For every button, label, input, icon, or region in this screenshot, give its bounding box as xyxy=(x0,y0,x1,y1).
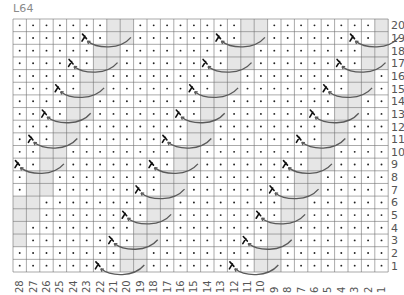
purl-dot xyxy=(260,100,262,102)
row-number: 5 xyxy=(391,209,398,222)
purl-dot xyxy=(273,100,275,102)
purl-dot xyxy=(354,252,356,254)
purl-dot xyxy=(19,265,21,267)
purl-dot xyxy=(193,62,195,64)
purl-dot xyxy=(180,239,182,241)
purl-dot xyxy=(340,189,342,191)
purl-dot xyxy=(354,176,356,178)
column-number: 21 xyxy=(108,280,119,293)
knit-cell xyxy=(254,32,267,45)
knit-cell xyxy=(40,183,53,196)
purl-dot xyxy=(247,126,249,128)
knit-cell xyxy=(13,196,26,209)
purl-dot xyxy=(247,252,249,254)
purl-dot xyxy=(139,24,141,26)
purl-dot xyxy=(287,50,289,52)
purl-dot xyxy=(233,24,235,26)
row-number: 11 xyxy=(391,133,404,146)
purl-dot xyxy=(72,88,74,90)
purl-dot xyxy=(220,151,222,153)
column-number: 14 xyxy=(202,280,213,293)
purl-dot xyxy=(86,265,88,267)
purl-dot xyxy=(72,214,74,216)
purl-dot xyxy=(99,138,101,140)
purl-dot xyxy=(99,151,101,153)
purl-dot xyxy=(340,201,342,203)
purl-dot xyxy=(340,214,342,216)
purl-dot xyxy=(381,214,383,216)
purl-dot xyxy=(273,113,275,115)
purl-dot xyxy=(46,37,48,39)
purl-dot xyxy=(206,252,208,254)
purl-dot xyxy=(206,24,208,26)
purl-dot xyxy=(367,138,369,140)
purl-dot xyxy=(19,37,21,39)
purl-dot xyxy=(206,88,208,90)
purl-dot xyxy=(260,239,262,241)
purl-dot xyxy=(180,100,182,102)
knit-cell xyxy=(40,158,53,171)
purl-dot xyxy=(287,126,289,128)
row-number: 10 xyxy=(391,146,404,159)
purl-dot xyxy=(139,176,141,178)
purl-dot xyxy=(340,50,342,52)
purl-dot xyxy=(32,227,34,229)
purl-dot xyxy=(220,176,222,178)
purl-dot xyxy=(180,75,182,77)
purl-dot xyxy=(32,37,34,39)
purl-dot xyxy=(99,100,101,102)
knit-cell xyxy=(67,133,80,146)
purl-dot xyxy=(233,151,235,153)
purl-dot xyxy=(300,100,302,102)
knit-cell xyxy=(361,82,374,95)
column-number: 27 xyxy=(28,280,39,293)
purl-dot xyxy=(46,138,48,140)
purl-dot xyxy=(327,214,329,216)
purl-dot xyxy=(260,151,262,153)
purl-dot xyxy=(233,214,235,216)
purl-dot xyxy=(180,88,182,90)
column-number: 3 xyxy=(349,287,360,293)
purl-dot xyxy=(19,75,21,77)
purl-dot xyxy=(153,126,155,128)
knit-cell xyxy=(160,209,173,222)
knit-cell xyxy=(348,82,361,95)
purl-dot xyxy=(153,189,155,191)
purl-dot xyxy=(206,75,208,77)
purl-dot xyxy=(32,50,34,52)
column-number: 11 xyxy=(242,280,253,293)
purl-dot xyxy=(193,239,195,241)
purl-dot xyxy=(153,37,155,39)
purl-dot xyxy=(206,50,208,52)
knit-cell xyxy=(120,259,133,272)
purl-dot xyxy=(367,151,369,153)
purl-dot xyxy=(273,201,275,203)
purl-dot xyxy=(46,227,48,229)
row-number: 6 xyxy=(391,196,398,209)
purl-dot xyxy=(233,252,235,254)
purl-dot xyxy=(113,176,115,178)
purl-dot xyxy=(260,88,262,90)
purl-dot xyxy=(247,113,249,115)
column-number: 7 xyxy=(296,287,307,293)
purl-dot xyxy=(247,176,249,178)
purl-dot xyxy=(193,24,195,26)
purl-dot xyxy=(193,189,195,191)
knit-cell xyxy=(308,183,321,196)
knit-cell xyxy=(13,221,26,234)
purl-dot xyxy=(99,214,101,216)
purl-dot xyxy=(314,126,316,128)
purl-dot xyxy=(59,189,61,191)
knit-cell xyxy=(187,158,200,171)
purl-dot xyxy=(314,252,316,254)
purl-dot xyxy=(180,62,182,64)
purl-dot xyxy=(32,88,34,90)
knit-cell xyxy=(241,19,254,32)
purl-dot xyxy=(32,24,34,26)
column-number: 22 xyxy=(95,280,106,293)
purl-dot xyxy=(46,50,48,52)
purl-dot xyxy=(193,50,195,52)
knit-cell xyxy=(227,82,240,95)
purl-dot xyxy=(287,75,289,77)
purl-dot xyxy=(300,126,302,128)
